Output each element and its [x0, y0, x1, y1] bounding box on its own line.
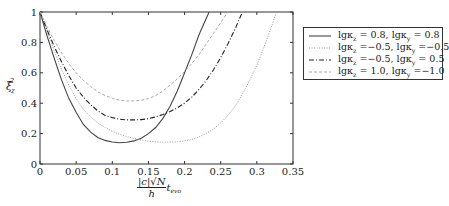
- chart-legend: lgκz = 0.8, lgκy = 0.8lgκz =−0.5, lgκy =…: [303, 27, 443, 80]
- plot-border: [40, 12, 293, 164]
- y-tick-label: 1: [31, 7, 37, 18]
- series-line-4: [40, 12, 228, 101]
- legend-swatch-icon: [307, 32, 333, 40]
- x-label-fraction: |c|√N h: [137, 176, 166, 199]
- legend-swatch-icon: [307, 44, 333, 52]
- x-tick-label: 0: [37, 166, 43, 177]
- x-axis-label: |c|√N h tevo: [137, 176, 181, 199]
- legend-swatch-icon: [307, 68, 333, 76]
- legend-label: lgκz = 1.0, lgκy =−1.0: [338, 65, 444, 79]
- x-tick-label: 0.1: [104, 166, 120, 177]
- x-tick-label: 0.25: [210, 166, 232, 177]
- legend-item: lgκz = 1.0, lgκy =−1.0: [307, 66, 439, 78]
- y-axis-label: ξz2: [6, 79, 20, 95]
- x-tick-label: 0.3: [249, 166, 265, 177]
- y-tick-label: 0.4: [21, 98, 37, 109]
- plot-frame: [40, 12, 293, 164]
- series-line-2: [40, 12, 276, 142]
- y-tick-label: 0: [31, 159, 37, 170]
- x-tick-label: 0.05: [65, 166, 87, 177]
- y-tick-label: 0.2: [21, 128, 37, 139]
- legend-swatch-icon: [307, 56, 333, 64]
- y-tick-label: 0.8: [21, 37, 37, 48]
- axis-ticks: 00.050.10.150.20.250.30.3500.20.40.60.81: [21, 7, 304, 178]
- series-lines: [40, 12, 276, 143]
- x-tick-label: 0.35: [282, 166, 304, 177]
- y-tick-label: 0.6: [21, 67, 37, 78]
